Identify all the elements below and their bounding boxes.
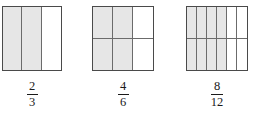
grid-cell-shaded <box>217 39 227 71</box>
grid-cell-empty <box>42 7 61 70</box>
fraction-label: 46 <box>118 80 129 108</box>
grid-cell-empty <box>237 7 247 39</box>
grid-cell-shaded <box>113 7 133 39</box>
equivalent-fractions-figure: 2346812 <box>0 0 265 116</box>
grid-cell-empty <box>227 39 237 71</box>
grid-cell-empty <box>133 39 153 71</box>
grid-cell-shaded <box>22 7 41 70</box>
grid-cell-shaded <box>197 7 207 39</box>
grid-cell-shaded <box>187 7 197 39</box>
area-model-grid <box>2 6 62 71</box>
grid-cell-shaded <box>93 39 113 71</box>
area-model-grid <box>92 6 154 71</box>
fraction-model-1: 23 <box>2 6 62 108</box>
fraction-model-3: 812 <box>186 6 248 108</box>
fraction-model-2: 46 <box>92 6 154 108</box>
fraction-denominator: 3 <box>29 95 35 109</box>
fraction-numerator: 8 <box>214 80 220 94</box>
fraction-numerator: 4 <box>120 80 126 94</box>
fraction-denominator: 12 <box>211 95 224 109</box>
grid-cell-shaded <box>93 7 113 39</box>
grid-cell-shaded <box>197 39 207 71</box>
grid-cell-shaded <box>3 7 22 70</box>
grid-cell-empty <box>237 39 247 71</box>
grid-cell-shaded <box>187 39 197 71</box>
grid-cell-shaded <box>207 7 217 39</box>
area-model-grid <box>186 6 248 71</box>
fraction-denominator: 6 <box>120 95 126 109</box>
fraction-label: 812 <box>211 80 224 108</box>
fraction-label: 23 <box>27 80 38 108</box>
grid-cell-shaded <box>113 39 133 71</box>
grid-cell-shaded <box>207 39 217 71</box>
grid-cell-empty <box>227 7 237 39</box>
grid-cell-shaded <box>217 7 227 39</box>
fraction-numerator: 2 <box>29 80 35 94</box>
grid-cell-empty <box>133 7 153 39</box>
